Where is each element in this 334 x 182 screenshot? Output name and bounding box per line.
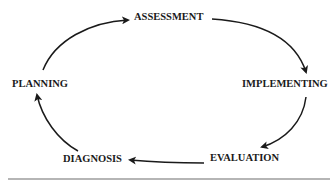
node-planning: PLANNING <box>12 78 68 89</box>
arrow-implementing-to-evaluation <box>262 97 306 147</box>
node-assessment: ASSESSMENT <box>134 11 203 22</box>
node-diagnosis: DIAGNOSIS <box>63 153 122 164</box>
node-evaluation: EVALUATION <box>210 152 279 163</box>
bottom-rule <box>8 178 330 180</box>
node-implementing: IMPLEMENTING <box>242 78 328 89</box>
arrow-diagnosis-to-planning <box>37 95 78 151</box>
arrow-assessment-to-implementing <box>212 19 306 72</box>
cycle-arrows <box>0 0 334 182</box>
arrow-planning-to-assessment <box>43 20 128 70</box>
arrow-evaluation-to-diagnosis <box>130 160 204 163</box>
